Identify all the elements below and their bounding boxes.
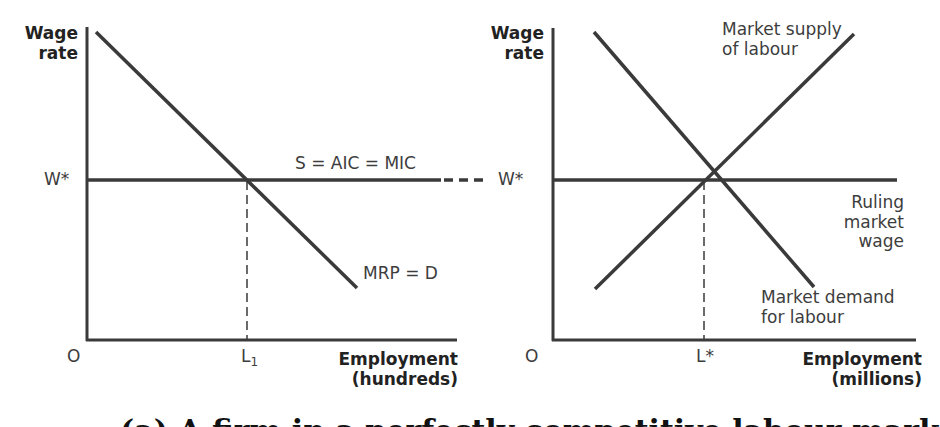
right-demand-line [594, 32, 814, 287]
left-panel-graph [86, 27, 488, 341]
right-demand-label-line2: for labour [761, 308, 895, 328]
left-wage-tick: W* [44, 170, 69, 190]
right-supply-label-line1: Market supply [722, 20, 842, 40]
right-y-axis-label-line2: rate [480, 44, 544, 64]
right-y-axis-label: Wage rate [480, 24, 544, 63]
left-x-axis-label: Employment (hundreds) [290, 350, 458, 389]
right-supply-label-line2: of labour [722, 40, 842, 60]
right-demand-label: Market demand for labour [761, 288, 895, 327]
right-x-axis-label: Employment (millions) [750, 350, 922, 389]
right-supply-label: Market supply of labour [722, 20, 842, 59]
left-x-axis-label-line2: (hundreds) [290, 370, 458, 390]
figure-caption-cropped: (a) A firm in a perfectly competitive la… [120, 413, 940, 427]
left-employment-tick: L1 [241, 347, 258, 367]
left-demand-label: MRP = D [363, 264, 438, 284]
right-demand-label-line1: Market demand [761, 288, 895, 308]
left-supply-label: S = AIC = MIC [295, 154, 416, 174]
left-y-axis-label-line1: Wage [14, 24, 78, 44]
right-y-axis-label-line1: Wage [480, 24, 544, 44]
left-y-axis-label-line2: rate [14, 44, 78, 64]
left-employment-tick-sub: 1 [250, 355, 258, 369]
right-x-axis-label-line1: Employment [750, 350, 922, 370]
right-employment-tick: L* [696, 347, 714, 367]
left-connector-wage-tick: W* [498, 170, 523, 190]
right-origin: O [525, 347, 538, 367]
left-origin: O [67, 347, 80, 367]
right-ruling-wage-line3: wage [800, 232, 904, 252]
left-x-axis-label-line1: Employment [290, 350, 458, 370]
right-ruling-wage-label: Ruling market wage [800, 193, 904, 252]
right-ruling-wage-line2: market [800, 213, 904, 233]
right-x-axis-label-line2: (millions) [750, 370, 922, 390]
left-y-axis-label: Wage rate [14, 24, 78, 63]
right-ruling-wage-line1: Ruling [800, 193, 904, 213]
